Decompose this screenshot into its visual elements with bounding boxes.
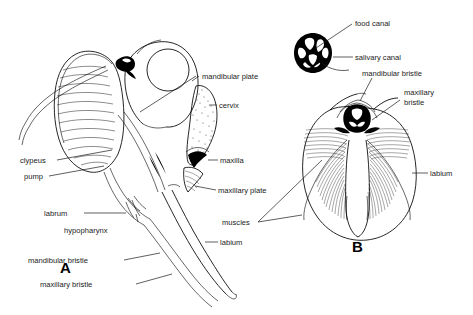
label-salivary-canal: salivary canal [355, 53, 401, 62]
label-labium-a: labium [220, 238, 242, 247]
label-food-canal: food canal [355, 19, 390, 28]
label-mandibular-bristle-b: mandibular bristle [362, 69, 422, 78]
figure-root: mandibular plate cervix maxilla maxillar… [0, 0, 473, 315]
label-maxilla: maxilla [220, 156, 244, 165]
label-mandibular-bristle-a: mandibular bristle [28, 256, 88, 265]
label-pump: pump [24, 172, 43, 181]
panel-letter-a: A [60, 259, 71, 276]
label-clypeus: clypeus [20, 156, 46, 165]
label-cervix: cervix [219, 101, 239, 110]
mosquito-mouthparts-diagram: mandibular plate cervix maxilla maxillar… [0, 0, 473, 315]
label-muscles: muscles [222, 218, 250, 227]
label-mandibular-plate: mandibular plate [202, 72, 258, 81]
label-labium-b: labium [430, 169, 452, 178]
panel-letter-b: B [352, 238, 363, 255]
label-maxillary-bristle-a: maxillary bristle [40, 280, 92, 289]
stylet-cross-section-inset [294, 33, 332, 73]
label-maxillary-bristle-b-line2: bristle [404, 98, 424, 107]
label-maxillary-plate: maxillary plate [218, 186, 267, 195]
label-maxillary-bristle-b-line1: maxillary [404, 88, 434, 97]
label-labrum: labrum [44, 209, 67, 218]
label-hypopharynx: hypopharynx [64, 226, 108, 235]
